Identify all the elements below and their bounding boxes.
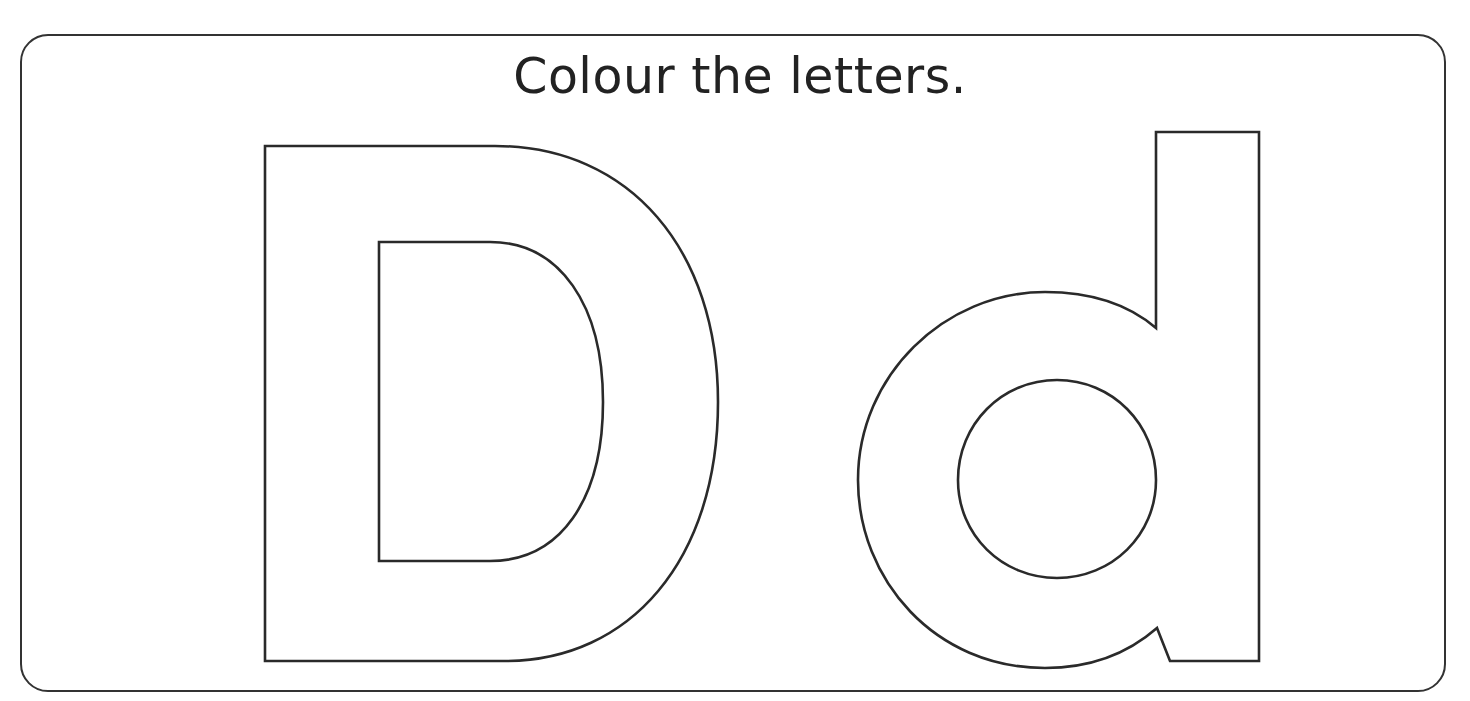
letters-canvas <box>0 0 1470 701</box>
letter-uppercase-d[interactable] <box>265 146 718 661</box>
letter-lowercase-d[interactable] <box>858 132 1259 668</box>
